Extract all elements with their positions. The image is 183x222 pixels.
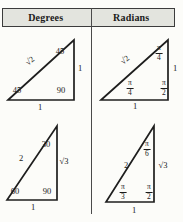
t2-left-angle-denominator: 4 <box>128 89 132 98</box>
t2-right-angle-label: π 2 <box>161 79 168 97</box>
t4-right-angle-label: π 2 <box>146 183 153 201</box>
t1-bottom-side-label: 1 <box>38 103 42 112</box>
t2-left-angle-label: π 4 <box>127 79 134 97</box>
t2-vertical-side-label: 1 <box>173 64 177 73</box>
t2-top-angle-label: π 4 <box>156 44 163 62</box>
t1-right-angle-label: 90 <box>57 86 66 95</box>
t3-left-angle-label: 60 <box>11 187 20 196</box>
t4-right-angle-denominator: 2 <box>147 193 151 202</box>
t4-vertical-side-label: √3 <box>159 161 168 170</box>
t1-vertical-side-label: 1 <box>78 64 82 73</box>
t2-bottom-side-label: 1 <box>133 102 137 111</box>
t3-bottom-side-label: 1 <box>31 203 35 212</box>
t2-right-angle-denominator: 2 <box>162 89 166 98</box>
t3-vertical-side-label: √3 <box>60 157 69 166</box>
t3-hypotenuse-label: 2 <box>19 154 23 163</box>
t1-top-angle-label: 45 <box>56 47 65 56</box>
triangles-drawing <box>0 0 183 222</box>
t3-top-angle-label: 30 <box>42 140 51 149</box>
triangle-reference-table: Degrees Radians √2 45 45 90 1 1 √2 π 4 π… <box>0 0 183 222</box>
t4-left-angle-denominator: 3 <box>121 193 125 202</box>
t1-left-angle-label: 45 <box>13 86 22 95</box>
t4-bottom-side-label: 1 <box>132 206 136 215</box>
t2-top-angle-denominator: 4 <box>157 54 161 63</box>
t3-right-angle-label: 90 <box>43 187 52 196</box>
t4-top-angle-label: π 6 <box>144 140 151 158</box>
t4-hypotenuse-label: 2 <box>124 161 128 170</box>
t4-top-angle-denominator: 6 <box>145 150 149 159</box>
t4-left-angle-label: π 3 <box>120 183 127 201</box>
